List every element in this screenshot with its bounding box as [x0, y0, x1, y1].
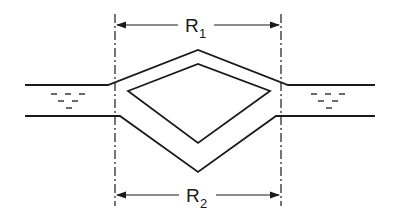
- channel-bottom-bank: [25, 116, 375, 172]
- r1-label: R: [185, 15, 199, 36]
- water-surface-icon-right: [311, 94, 345, 108]
- dimension-r2: R 2: [116, 185, 280, 211]
- arrowhead-right-icon: [270, 192, 280, 199]
- island: [128, 64, 270, 143]
- channel-top-bank: [25, 50, 375, 85]
- r1-subscript: 1: [199, 26, 206, 41]
- r2-subscript: 2: [200, 196, 207, 211]
- dimension-r1: R 1: [116, 15, 280, 41]
- arrowhead-left-icon: [116, 22, 126, 29]
- arrowhead-left-icon: [116, 192, 126, 199]
- diagram-canvas: R 1 R 2: [0, 0, 393, 217]
- r2-label: R: [186, 185, 200, 206]
- arrowhead-right-icon: [270, 22, 280, 29]
- water-surface-icon-left: [51, 94, 85, 108]
